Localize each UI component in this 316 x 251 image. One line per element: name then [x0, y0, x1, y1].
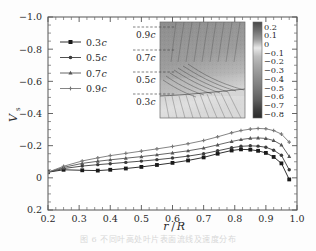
data-point-marker — [139, 165, 143, 169]
data-point-marker — [272, 155, 276, 159]
data-point-marker — [248, 148, 252, 152]
data-point-marker — [287, 178, 291, 182]
inset-section-label-unit: c — [151, 75, 156, 85]
figure-caption: 图 6 不同叶高处叶片表面流线及速度分布 — [0, 233, 316, 244]
y-tick-label: −0.4 — [19, 108, 42, 119]
inset-section-label-value: 0.5 — [136, 75, 151, 85]
x-tick-label: 0.3 — [72, 213, 87, 224]
data-point-marker — [186, 159, 190, 163]
x-tick-label: 1.0 — [289, 213, 304, 224]
data-point-marker — [264, 151, 268, 155]
y-tick-label: −0.8 — [19, 44, 42, 55]
y-axis-title-main: V — [7, 113, 20, 122]
y-tick-label: −0.2 — [19, 140, 42, 151]
inset-section-label-value: 0.9 — [136, 30, 151, 40]
data-point-marker — [140, 159, 143, 162]
data-point-marker — [202, 156, 206, 160]
legend-label-unit: c — [102, 37, 108, 48]
chart-svg: −1.0−0.8−0.6−0.4−0.200.2 0.20.30.40.50.6… — [0, 0, 316, 251]
legend-label-unit: c — [102, 52, 108, 63]
legend-label-value: 0.3 — [86, 37, 101, 48]
data-point-marker — [155, 163, 159, 167]
data-point-marker — [202, 152, 205, 155]
data-point-marker — [280, 161, 284, 165]
y-tick-label: 0 — [36, 172, 42, 183]
colorbar-tick-label: −0.8 — [264, 109, 284, 119]
inset-section-label-value: 0.3 — [136, 97, 151, 107]
data-point-marker — [230, 146, 233, 149]
inset-section-label-unit: c — [151, 97, 156, 107]
data-point-marker — [69, 40, 73, 44]
data-point-marker — [256, 144, 259, 147]
x-tick-label: 0.8 — [227, 213, 242, 224]
x-tick-label: 0.9 — [258, 213, 273, 224]
data-point-marker — [171, 161, 175, 165]
x-tick-label: 0.4 — [103, 213, 118, 224]
data-point-marker — [280, 154, 283, 157]
x-tick-label: 0.7 — [196, 213, 211, 224]
data-point-marker — [155, 158, 158, 161]
legend-label-unit: c — [102, 83, 108, 94]
legend-label-value: 0.7 — [86, 68, 101, 79]
legend-label-unit: c — [102, 68, 108, 79]
data-point-marker — [239, 147, 243, 151]
data-point-marker — [272, 148, 275, 151]
data-point-marker — [186, 154, 189, 157]
x-axis-title-den: R — [176, 220, 185, 233]
data-point-marker — [288, 168, 291, 171]
data-point-marker — [96, 169, 100, 173]
x-axis-title-slash: / — [171, 220, 175, 233]
inset-section-label-value: 0.7 — [136, 53, 151, 63]
inset-section-label-unit: c — [151, 53, 156, 63]
legend-label-value: 0.9 — [86, 83, 101, 94]
data-point-marker — [124, 167, 128, 171]
data-point-marker — [109, 162, 112, 165]
y-axis-title-sub: s — [14, 107, 22, 111]
inset-contour-plot — [160, 22, 245, 118]
data-point-marker — [171, 156, 174, 159]
y-axis-title: V s — [7, 107, 22, 122]
data-point-marker — [69, 56, 73, 60]
data-point-marker — [124, 161, 127, 164]
x-tick-label: 0.5 — [134, 213, 149, 224]
x-axis-title-num: r — [163, 220, 169, 233]
x-tick-label: 0.2 — [40, 213, 55, 224]
inset-section-label-unit: c — [151, 30, 156, 40]
data-point-marker — [96, 163, 99, 166]
y-tick-label: −1.0 — [19, 11, 42, 22]
data-point-marker — [81, 164, 84, 167]
data-point-marker — [216, 149, 219, 152]
figure-container: −1.0−0.8−0.6−0.4−0.200.2 0.20.30.40.50.6… — [0, 0, 316, 251]
x-axis-title: r / R — [163, 220, 185, 233]
y-tick-label: −0.6 — [19, 76, 42, 87]
data-point-marker — [80, 168, 84, 172]
legend-label-value: 0.5 — [86, 52, 101, 63]
data-point-marker — [256, 149, 260, 153]
data-point-marker — [264, 146, 267, 149]
data-point-marker — [249, 144, 252, 147]
data-point-marker — [108, 168, 112, 172]
data-point-marker — [239, 145, 242, 148]
